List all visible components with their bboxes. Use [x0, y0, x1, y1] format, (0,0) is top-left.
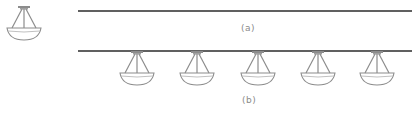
caption-a: (a): [241, 23, 255, 33]
pendant-fixture-3: [241, 51, 275, 85]
caption-b: (b): [242, 95, 256, 105]
diagram-canvas: [0, 0, 414, 114]
pendant-fixture-2: [180, 51, 214, 85]
pendant-fixture-5: [360, 51, 394, 85]
pendant-fixture-1: [120, 51, 154, 85]
pendant-fixture-4: [301, 51, 335, 85]
standalone-pendant-fixture: [7, 6, 41, 40]
